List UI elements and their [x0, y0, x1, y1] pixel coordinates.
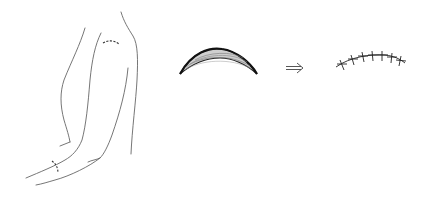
medical-illustration: [0, 0, 432, 198]
sutured-closure: [336, 51, 406, 70]
shoulder-incision-mark: [103, 41, 119, 44]
forearm-incision-mark: [52, 161, 58, 173]
arm-drawing: [26, 12, 138, 185]
excised-tissue-crescent: [180, 49, 257, 74]
right-double-arrow-icon: [286, 63, 303, 73]
